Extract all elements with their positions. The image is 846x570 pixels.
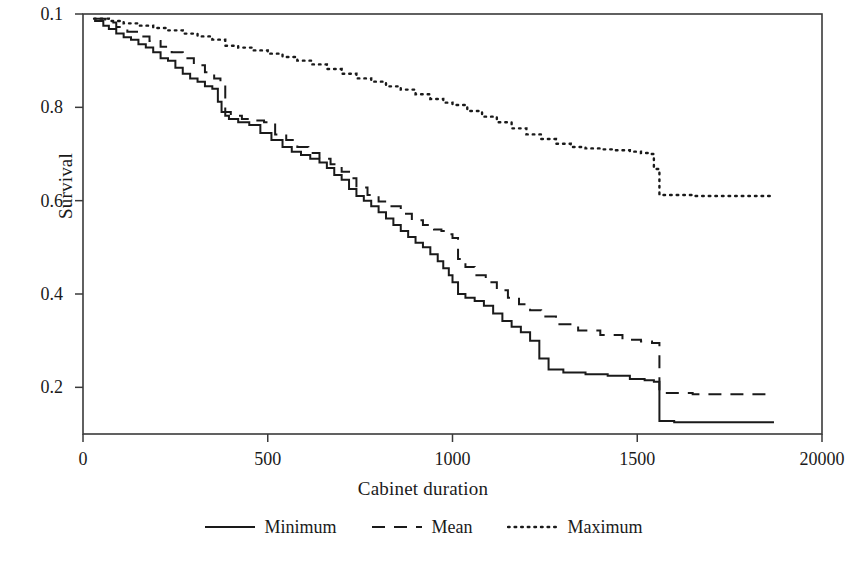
legend-label: Maximum [568,518,643,536]
chart-legend: MinimumMeanMaximum [0,518,846,536]
survival-chart-figure: Survival Cabinet duration MinimumMeanMax… [0,0,846,570]
y-tick-label: 0.6 [7,192,63,210]
legend-item-mean[interactable]: Mean [371,518,473,536]
series-line-maximum [94,19,774,196]
legend-item-maximum[interactable]: Maximum [507,518,643,536]
y-axis-title: Survival [55,126,77,246]
legend-item-minimum[interactable]: Minimum [204,518,337,536]
x-tick-label: 0 [38,450,128,468]
y-tick-label: 0.4 [7,285,63,303]
y-tick-label: 0.8 [7,98,63,116]
x-tick-label: 1000 [408,450,498,468]
legend-swatch-solid-icon [204,522,256,532]
series-line-minimum [94,21,774,422]
legend-swatch-dashed-icon [371,522,423,532]
y-tick-label: 0.1 [7,5,63,23]
x-tick-label: 1500 [592,450,682,468]
series-line-mean [94,19,774,395]
x-tick-label: 20000 [777,450,846,468]
x-tick-label: 500 [223,450,313,468]
legend-swatch-dotted-icon [507,522,559,532]
plot-frame [83,14,822,434]
y-tick-label: 0.2 [7,378,63,396]
x-axis-title: Cabinet duration [0,478,846,500]
legend-label: Mean [432,518,473,536]
legend-label: Minimum [265,518,337,536]
